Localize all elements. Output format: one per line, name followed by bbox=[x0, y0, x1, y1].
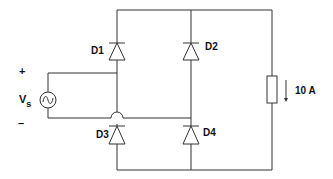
source-label: Vs bbox=[19, 93, 31, 109]
diode-d1-label: D1 bbox=[91, 45, 104, 56]
diode-d4-label: D4 bbox=[203, 127, 216, 138]
wire-crossover-hop bbox=[111, 112, 123, 118]
current-arrow-icon bbox=[284, 80, 288, 102]
diode-d3 bbox=[109, 126, 125, 144]
diode-d4 bbox=[183, 126, 199, 144]
current-label: 10 A bbox=[295, 85, 316, 96]
diode-d2 bbox=[183, 43, 199, 60]
ac-source-icon bbox=[40, 92, 56, 108]
source-label-subscript: s bbox=[26, 99, 31, 109]
source-bottom-wire bbox=[48, 108, 111, 118]
source-minus-label: – bbox=[18, 117, 24, 129]
source-top-wire bbox=[48, 73, 117, 92]
bridge-rectifier-diagram: + Vs – D1 D2 D3 D4 10 A bbox=[0, 0, 333, 179]
wires bbox=[48, 10, 272, 170]
source-plus-label: + bbox=[19, 65, 25, 77]
diode-d1 bbox=[109, 43, 125, 60]
resistor-icon bbox=[267, 76, 277, 103]
diode-d3-label: D3 bbox=[96, 129, 109, 140]
diode-d2-label: D2 bbox=[205, 41, 218, 52]
